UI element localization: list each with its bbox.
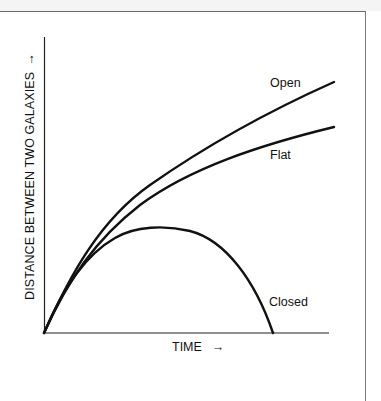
- y-axis-arrow-icon: →: [23, 53, 37, 66]
- curve-closed: [44, 227, 273, 333]
- x-axis-title: TIME: [172, 340, 202, 354]
- x-axis-arrow-icon: →: [212, 340, 225, 354]
- label-open: Open: [270, 76, 301, 90]
- y-axis-label: DISTANCE BETWEEN TWO GALAXIES→: [23, 53, 37, 300]
- x-axis-label: TIME→: [172, 340, 224, 354]
- y-axis-title: DISTANCE BETWEEN TWO GALAXIES: [23, 72, 37, 300]
- label-closed: Closed: [269, 295, 308, 309]
- label-flat: Flat: [270, 148, 291, 162]
